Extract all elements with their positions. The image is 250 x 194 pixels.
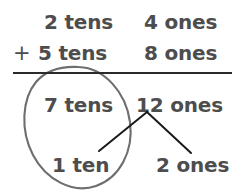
addend2-ones: 8 ones [144, 43, 217, 63]
plus-operator: + [13, 43, 31, 64]
place-value-addition-worksheet: 2 tens 4 ones + 5 tens 8 ones 7 tens 12 … [0, 0, 250, 194]
decomposition-ones: 2 ones [156, 155, 229, 175]
decomposition-tens: 1 ten [52, 155, 109, 175]
addend2-tens: 5 tens [38, 43, 107, 63]
sum-rule-line [13, 72, 232, 74]
addend1-ones: 4 ones [144, 12, 217, 32]
decomposition-branch [99, 112, 191, 153]
addend1-tens: 2 tens [44, 12, 113, 32]
sum-ones: 12 ones [136, 95, 223, 115]
sum-tens: 7 tens [44, 95, 113, 115]
